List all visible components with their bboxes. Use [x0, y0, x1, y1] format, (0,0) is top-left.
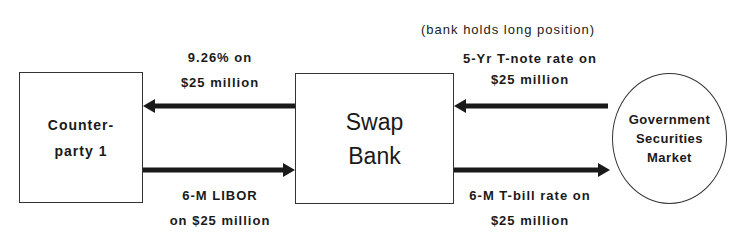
- market-label-line2: Securities: [629, 129, 711, 148]
- flow-label-counterparty-to-bank: 6-M LIBOR on $25 million: [140, 183, 300, 233]
- flow-label-market-to-bank: 5-Yr T-note rate on $25 million: [450, 48, 610, 90]
- counterparty-label-line2: party 1: [48, 138, 114, 164]
- arrowhead-right-icon: [598, 163, 610, 177]
- flow-label-bank-to-market: 6-M T-bill rate on $25 million: [450, 183, 610, 233]
- arrowhead-left-icon: [454, 99, 466, 113]
- counterparty-1-box: Counter- party 1: [19, 72, 143, 203]
- swap-bank-label-line2: Bank: [346, 139, 404, 173]
- market-label-line3: Market: [629, 148, 711, 167]
- flow-label-bank-to-counterparty: 9.26% on $25 million: [160, 45, 280, 95]
- arrowhead-left-icon: [143, 99, 155, 113]
- swap-bank-label-line1: Swap: [346, 105, 404, 139]
- swap-bank-box: Swap Bank: [295, 73, 454, 204]
- arrowhead-right-icon: [283, 163, 295, 177]
- market-label-line1: Government: [629, 110, 711, 129]
- counterparty-label-line1: Counter-: [48, 112, 114, 138]
- position-annotation: (bank holds long position): [421, 22, 595, 37]
- government-securities-market-circle: Government Securities Market: [612, 73, 727, 204]
